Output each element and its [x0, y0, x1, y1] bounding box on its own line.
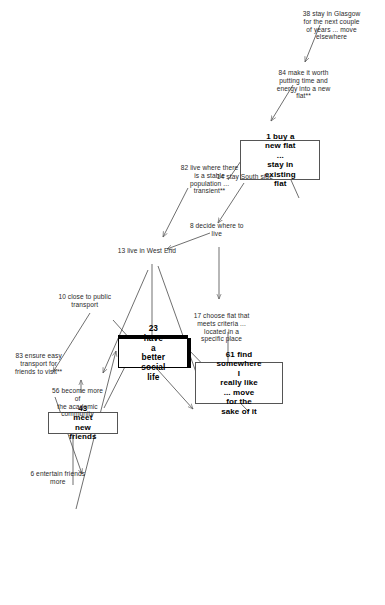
node-56-label: 56 become more of the academic community	[50, 387, 106, 418]
node-82-label: 82 live where there is a stable populati…	[181, 164, 239, 195]
node-6-entertain-friends-more[interactable]: 6 entertain friends more	[46, 447, 70, 509]
node-61-label: 61 find somewhere I really like ... move…	[217, 350, 262, 416]
node-14-stay-south-side[interactable]: 14 stay South side	[238, 147, 252, 207]
node-56-become-more-academic-community[interactable]: 56 become more of the academic community	[62, 375, 94, 431]
diagram-canvas: 23 have a better social life 43 meet new…	[0, 0, 385, 605]
node-6-label: 6 entertain friends more	[27, 470, 89, 486]
node-10-label: 10 close to public transport	[56, 293, 114, 309]
node-84-label: 84 make it worth putting time and energy…	[273, 69, 335, 100]
node-38-label: 38 stay in Glasgow for the next couple o…	[301, 10, 363, 41]
node-17-choose-flat-meets-criteria[interactable]: 17 choose flat that meets criteria ... l…	[202, 297, 242, 359]
node-23-label: 23 have a better social life	[141, 324, 165, 383]
node-38-stay-in-glasgow[interactable]: 38 stay in Glasgow for the next couple o…	[312, 0, 352, 57]
node-23-have-better-social-life[interactable]: 23 have a better social life	[118, 338, 188, 368]
node-82-live-where-stable-population[interactable]: 82 live where there is a stable populati…	[190, 151, 230, 209]
node-8-label: 8 decide where to live	[190, 222, 244, 238]
node-8-decide-where-to-live[interactable]: 8 decide where to live	[204, 203, 230, 257]
node-61-find-somewhere-i-really-like[interactable]: 61 find somewhere I really like ... move…	[195, 362, 283, 404]
node-13-live-in-west-end[interactable]: 13 live in West End	[140, 219, 154, 283]
node-13-label: 13 live in West End	[115, 247, 179, 255]
node-17-label: 17 choose flat that meets criteria ... l…	[191, 312, 253, 343]
node-84-make-it-worth-time-energy[interactable]: 84 make it worth putting time and energy…	[284, 54, 324, 116]
node-83-label: 83 ensure easy transport for friends to …	[11, 352, 67, 375]
node-10-close-to-public-transport[interactable]: 10 close to public transport	[72, 272, 98, 330]
node-83-ensure-easy-transport[interactable]: 83 ensure easy transport for friends to …	[22, 336, 56, 392]
